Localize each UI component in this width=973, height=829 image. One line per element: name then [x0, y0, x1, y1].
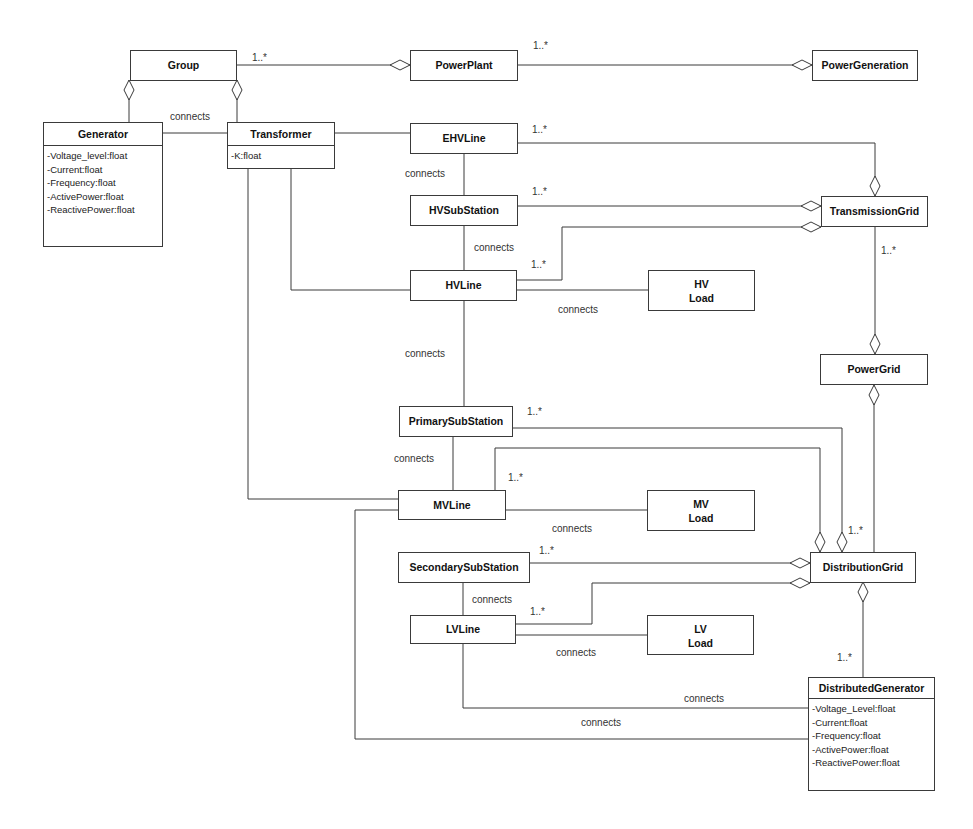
class-name: PowerGeneration: [813, 51, 917, 79]
class-hvline[interactable]: HVLine: [410, 270, 517, 301]
class-lvline[interactable]: LVLine: [410, 615, 516, 644]
class-name-line1: LV: [648, 622, 753, 636]
class-name-line2: Load: [648, 636, 753, 650]
multiplicity-label: 1..*: [252, 52, 267, 63]
aggregation-diamond-icon: [790, 558, 810, 568]
aggregation-diamond-icon: [869, 385, 879, 405]
class-name: DistributionGrid: [811, 553, 915, 581]
connects-label: connects: [394, 453, 434, 464]
class-transformer[interactable]: Transformer -K:float: [227, 122, 335, 169]
connects-label: connects: [581, 717, 621, 728]
uml-diagram: Group PowerPlant PowerGeneration Generat…: [0, 0, 973, 829]
connects-label: connects: [472, 594, 512, 605]
multiplicity-label: 1..*: [532, 124, 547, 135]
class-name-line2: Load: [649, 291, 754, 305]
class-hvload[interactable]: HV Load: [648, 270, 755, 311]
attribute: -Current:float: [812, 716, 934, 730]
attribute: -Frequency:float: [812, 729, 934, 743]
multiplicity-label: 1..*: [530, 606, 545, 617]
class-name: LVLine: [411, 616, 515, 642]
aggregation-diamond-icon: [858, 582, 868, 602]
class-hvsubstation[interactable]: HVSubStation: [410, 195, 518, 226]
class-name: PowerGrid: [821, 355, 927, 383]
attribute-list: -Voltage_level:float -Current:float -Fre…: [44, 146, 162, 217]
attribute-list: -K:float: [228, 146, 334, 163]
attribute: -Frequency:float: [47, 176, 162, 190]
class-primarysubstation[interactable]: PrimarySubStation: [399, 406, 513, 437]
multiplicity-label: 1..*: [533, 40, 548, 51]
attribute: -Voltage_level:float: [47, 149, 162, 163]
class-name: PrimarySubStation: [400, 407, 512, 435]
connects-label: connects: [405, 168, 445, 179]
class-generator[interactable]: Generator -Voltage_level:float -Current:…: [43, 122, 163, 247]
class-powerplant[interactable]: PowerPlant: [410, 50, 518, 81]
attribute: -Voltage_Level:float: [812, 702, 934, 716]
class-name: SecondarySubStation: [399, 553, 529, 581]
multiplicity-label: 1..*: [508, 472, 523, 483]
connects-label: connects: [474, 242, 514, 253]
class-distributiongrid[interactable]: DistributionGrid: [810, 552, 916, 583]
connects-label: connects: [558, 304, 598, 315]
class-powergeneration[interactable]: PowerGeneration: [812, 50, 918, 81]
aggregation-diamond-icon: [232, 80, 242, 100]
aggregation-diamond-icon: [801, 201, 821, 211]
multiplicity-label: 1..*: [531, 259, 546, 270]
multiplicity-label: 1..*: [848, 525, 863, 536]
class-mvline[interactable]: MVLine: [398, 490, 506, 520]
connects-label: connects: [552, 523, 592, 534]
class-name: MV Load: [648, 491, 754, 525]
class-name: PowerPlant: [411, 51, 517, 79]
class-transmissiongrid[interactable]: TransmissionGrid: [821, 196, 928, 227]
aggregation-diamond-icon: [790, 578, 810, 588]
class-lvload[interactable]: LV Load: [647, 615, 754, 655]
attribute: -Current:float: [47, 163, 162, 177]
connects-label: connects: [556, 647, 596, 658]
multiplicity-label: 1..*: [532, 186, 547, 197]
class-name-line2: Load: [648, 511, 754, 525]
aggregation-diamond-icon: [801, 222, 821, 232]
class-name: Transformer: [228, 123, 334, 146]
class-ehvline[interactable]: EHVLine: [410, 123, 518, 154]
attribute: -ActivePower:float: [47, 190, 162, 204]
aggregation-diamond-icon: [837, 532, 847, 552]
multiplicity-label: 1..*: [527, 406, 542, 417]
attribute: -ActivePower:float: [812, 743, 934, 757]
aggregation-diamond-icon: [792, 60, 812, 70]
class-group[interactable]: Group: [130, 50, 237, 81]
attribute: -ReactivePower:float: [47, 203, 162, 217]
class-name-line1: HV: [649, 277, 754, 291]
attribute: -K:float: [231, 149, 334, 163]
multiplicity-label: 1..*: [539, 545, 554, 556]
class-secondarysubstation[interactable]: SecondarySubStation: [398, 552, 530, 583]
class-powergrid[interactable]: PowerGrid: [820, 354, 928, 385]
connects-label: connects: [405, 348, 445, 359]
class-name: HVLine: [411, 271, 516, 299]
aggregation-diamond-icon: [870, 176, 880, 196]
class-name: HV Load: [649, 271, 754, 305]
aggregation-diamond-icon: [870, 334, 880, 354]
attribute-list: -Voltage_Level:float -Current:float -Fre…: [809, 699, 934, 770]
multiplicity-label: 1..*: [837, 652, 852, 663]
class-name: Group: [131, 51, 236, 79]
attribute: -ReactivePower:float: [812, 756, 934, 770]
class-name: MVLine: [399, 491, 505, 519]
class-name: TransmissionGrid: [822, 197, 927, 225]
multiplicity-label: 1..*: [881, 245, 896, 256]
aggregation-diamond-icon: [815, 532, 825, 552]
class-distributedgenerator[interactable]: DistributedGenerator -Voltage_Level:floa…: [808, 677, 935, 791]
class-name: LV Load: [648, 616, 753, 650]
aggregation-diamond-icon: [390, 60, 410, 70]
class-mvload[interactable]: MV Load: [647, 490, 755, 531]
class-name: Generator: [44, 123, 162, 146]
connects-label: connects: [170, 111, 210, 122]
class-name: DistributedGenerator: [809, 678, 934, 699]
class-name: EHVLine: [411, 124, 517, 152]
class-name-line1: MV: [648, 497, 754, 511]
aggregation-diamond-icon: [124, 80, 134, 100]
connects-label: connects: [684, 693, 724, 704]
class-name: HVSubStation: [411, 196, 517, 224]
